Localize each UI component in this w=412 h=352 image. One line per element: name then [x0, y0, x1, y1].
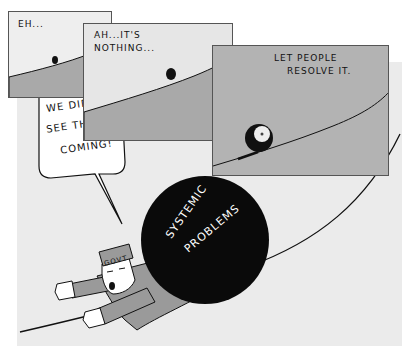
panel-2-caption-line-2: NOTHING...	[94, 43, 155, 53]
panel-3-caption-line-1: LET PEOPLE	[274, 53, 337, 63]
panel-1-caption: EH...	[18, 19, 44, 29]
panel-3: LET PEOPLE RESOLVE IT.	[212, 45, 389, 176]
small-ball	[52, 56, 58, 64]
panel-2-caption-line-1: AH...IT'S	[94, 30, 141, 40]
medium-ball	[166, 68, 176, 80]
person-hand-1	[55, 281, 75, 300]
panel-3-caption-line-2: RESOLVE IT.	[287, 66, 351, 76]
panel-2: AH...IT'S NOTHING...	[83, 23, 233, 141]
